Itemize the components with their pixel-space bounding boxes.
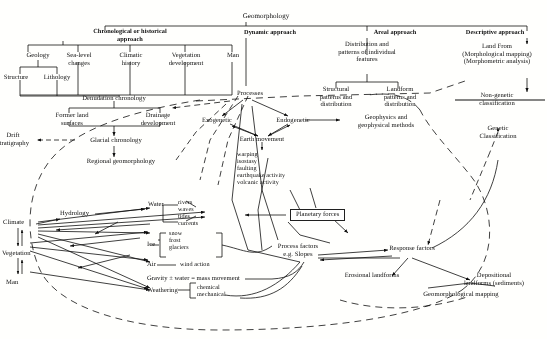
node-genetic-classification: Genetic Classification — [480, 125, 517, 140]
earth-movement-process-list: warping isostasy faulting earthquake act… — [237, 151, 285, 186]
node-sea-level-changes: Sea-level changes — [67, 52, 92, 67]
node-lithology: Lithology — [44, 74, 70, 82]
agent-air-sublist: wind action — [180, 261, 210, 268]
node-erosional-landforms: Erosional landforms — [345, 272, 400, 280]
areal-distribution-heading: Distribution and patterns of individual … — [338, 41, 396, 64]
node-former-land-surfaces: Former land surfaces — [56, 112, 89, 127]
geomorphology-diagram: Geomorphology Chronological or historica… — [0, 0, 547, 339]
node-man-top: Man — [227, 52, 239, 60]
node-climatic-history: Climatic history — [119, 52, 142, 67]
figure-title: Geomorphology — [243, 13, 290, 21]
node-climate: Climate — [3, 219, 24, 227]
approach-chronological-label: Chronological or historical approach — [93, 28, 167, 43]
agent-weathering-sublist: chemical mechanical — [197, 284, 226, 298]
approach-dynamic-label: Dynamic approach — [244, 29, 296, 37]
node-denudation-chronology: Denudation chronology — [82, 95, 146, 103]
agent-water: Water — [148, 201, 164, 209]
node-drift-stratigraphy: Drift stratigraphy — [0, 132, 29, 147]
agent-gravity-mass-movement: Gravity ± water = mass movement — [147, 275, 240, 283]
node-hydrology: Hydrology — [60, 210, 89, 218]
node-vegetation-development: Vegetation development — [169, 52, 204, 67]
node-regional-geomorphology: Regional geomorphology — [87, 158, 155, 166]
node-planetary-forces: Planetary forces — [290, 209, 345, 221]
approach-areal-label: Areal approach — [374, 29, 417, 37]
approach-descriptive-label: Descriptive approach — [466, 29, 524, 37]
agent-ice-sublist: snow frost glaciers — [169, 230, 189, 251]
node-geology: Geology — [26, 52, 49, 60]
node-geophysics: Geophysics and geophysical methods — [358, 114, 414, 129]
node-depositional-landforms: Depositional landforms (sediments) — [464, 272, 524, 287]
node-geomorphological-mapping: Geomorphological mapping — [423, 291, 498, 299]
node-processes: Processes — [237, 90, 263, 98]
node-endogenetic: Endogenetic — [276, 117, 310, 125]
node-vegetation: Vegetation — [2, 250, 31, 258]
agent-air: Air — [147, 261, 156, 269]
node-drainage-development: Drainage development — [141, 112, 176, 127]
node-land-form-descriptive: Land From (Morphological mapping) (Morph… — [462, 43, 531, 66]
node-landform-patterns: Landform patterns and distribution — [384, 86, 417, 109]
node-structural-patterns: Structural patterns and distribution — [320, 86, 353, 109]
node-glacial-chronology: Glacial chronology — [90, 137, 142, 145]
agent-weathering: Weathering — [147, 287, 178, 295]
node-process-factors: Process factors e.g. Slopes — [278, 243, 318, 258]
node-exogenetic: Exogenetic — [202, 117, 232, 125]
agent-ice: Ice — [147, 241, 155, 249]
node-structure: Structure — [4, 74, 29, 82]
agent-water-sublist: rivers waves tides currents — [178, 199, 198, 227]
node-man-lower: Man — [6, 279, 18, 287]
node-response-factors: Response factors — [389, 245, 435, 253]
node-non-genetic-classification: Non-genetic classification — [479, 92, 515, 107]
node-earth-movement: Earth movement — [240, 136, 284, 144]
